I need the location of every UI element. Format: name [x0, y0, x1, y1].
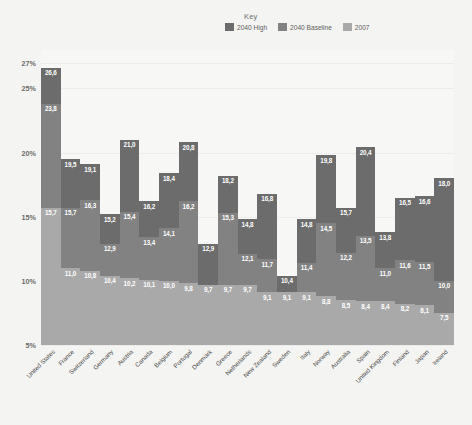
bar-stack: 18,010,07,5 — [434, 50, 454, 345]
bar-value-label: 18,0 — [438, 180, 450, 187]
bar-group[interactable]: 20,413,58,4 — [356, 50, 376, 345]
x-axis-label-cell: Sweden — [277, 345, 297, 407]
bar-value-label: 15,3 — [222, 214, 234, 221]
bar-value-label: 9,1 — [283, 294, 291, 301]
bar-segment-2007: 9,1 — [277, 292, 297, 345]
x-axis-label-cell: United Kingdom — [375, 345, 395, 407]
bar-group[interactable]: 16,511,68,2 — [395, 50, 415, 345]
bar-group[interactable]: 18,414,110,0 — [159, 50, 179, 345]
legend-item-1[interactable]: 2040 Baseline — [278, 23, 332, 31]
bar-value-label: 8,2 — [401, 305, 409, 312]
bar-value-label: 10,4 — [281, 277, 293, 284]
legend-item-0[interactable]: 2040 High — [225, 23, 267, 31]
bar-group[interactable]: 12,99,7 — [198, 50, 218, 345]
x-axis-label-cell: Japan — [415, 345, 435, 407]
x-axis-label-cell: Canada — [139, 345, 159, 407]
x-axis-label-cell: Norway — [316, 345, 336, 407]
bar-segment-2007: 10,2 — [120, 278, 140, 345]
bar-stack: 26,623,815,7 — [41, 50, 61, 345]
bar-segment-2007: 11,0 — [61, 268, 81, 345]
bar-segment-2007: 8,4 — [356, 301, 376, 345]
bar-stack: 19,814,58,8 — [316, 50, 336, 345]
bar-stack: 10,49,1 — [277, 50, 297, 345]
bar-group[interactable]: 26,623,815,7 — [41, 50, 61, 345]
bar-group[interactable]: 16,213,410,1 — [139, 50, 159, 345]
bar-segment-2007: 8,8 — [316, 296, 336, 345]
bar-value-label: 8,5 — [342, 302, 350, 309]
plot-area: 27%25%20%15%10%5% 26,623,815,719,515,711… — [41, 50, 454, 345]
x-axis-label: Japan — [413, 348, 430, 365]
bar-value-label: 10,4 — [104, 277, 116, 284]
bar-segment-2007: 9,7 — [218, 285, 238, 345]
legend-item-2[interactable]: 2007 — [343, 23, 370, 31]
bar-group[interactable]: 21,015,410,2 — [120, 50, 140, 345]
legend-swatch-icon — [278, 23, 287, 31]
bar-stack: 16,611,58,1 — [415, 50, 435, 345]
bar-columns: 26,623,815,719,515,711,019,116,310,815,2… — [41, 50, 454, 345]
bar-group[interactable]: 15,712,28,5 — [336, 50, 356, 345]
x-axis-label-cell: Australia — [336, 345, 356, 407]
bar-group[interactable]: 16,611,58,1 — [415, 50, 435, 345]
bar-stack: 18,215,39,7 — [218, 50, 238, 345]
bar-group[interactable]: 13,811,08,4 — [375, 50, 395, 345]
bar-stack: 20,816,29,8 — [179, 50, 199, 345]
bar-value-label: 19,8 — [320, 157, 332, 164]
bar-stack: 14,812,19,7 — [238, 50, 258, 345]
bar-group[interactable]: 16,811,79,1 — [257, 50, 277, 345]
bar-value-label: 14,5 — [320, 225, 332, 232]
bar-value-label: 16,2 — [143, 203, 155, 210]
chart-container: Key 2040 High2040 Baseline2007 27%25%20%… — [0, 0, 472, 425]
bar-value-label: 8,4 — [381, 303, 389, 310]
bar-value-label: 10,8 — [84, 272, 96, 279]
bar-group[interactable]: 18,215,39,7 — [218, 50, 238, 345]
x-axis-label-cell: Denmark — [198, 345, 218, 407]
bar-value-label: 11,4 — [301, 264, 313, 271]
bar-segment-2007: 9,8 — [179, 283, 199, 345]
bar-group[interactable]: 19,515,711,0 — [61, 50, 81, 345]
bar-stack: 16,213,410,1 — [139, 50, 159, 345]
bar-group[interactable]: 14,812,19,7 — [238, 50, 258, 345]
x-axis-label-cell: Belgium — [159, 345, 179, 407]
bar-segment-2007: 9,1 — [257, 292, 277, 345]
bar-value-label: 9,7 — [224, 286, 232, 293]
y-axis-tick-label: 10% — [22, 276, 36, 285]
bar-group[interactable]: 20,816,29,8 — [179, 50, 199, 345]
bar-segment-2007: 10,0 — [159, 281, 179, 345]
x-axis-label-cell: Austria — [120, 345, 140, 407]
bar-value-label: 16,3 — [84, 202, 96, 209]
bar-value-label: 15,4 — [124, 213, 136, 220]
bar-group[interactable]: 10,49,1 — [277, 50, 297, 345]
bar-value-label: 15,7 — [340, 209, 352, 216]
x-axis-label-cell: Finland — [395, 345, 415, 407]
bar-group[interactable]: 14,811,49,1 — [297, 50, 317, 345]
bar-value-label: 16,6 — [419, 198, 431, 205]
x-axis-labels: United StatesFranceSwitzerlandGermanyAus… — [41, 345, 454, 407]
bar-value-label: 12,9 — [202, 245, 214, 252]
x-axis-label-cell: France — [61, 345, 81, 407]
bar-segment-2007: 9,7 — [238, 285, 258, 345]
x-axis-label: United States — [25, 348, 56, 379]
bar-value-label: 7,5 — [440, 314, 448, 321]
bar-segment-2007: 8,5 — [336, 300, 356, 345]
legend-swatch-icon — [225, 23, 234, 31]
bar-value-label: 12,2 — [340, 254, 352, 261]
bar-group[interactable]: 19,814,58,8 — [316, 50, 336, 345]
bar-value-label: 13,4 — [143, 239, 155, 246]
bar-group[interactable]: 19,116,310,8 — [80, 50, 100, 345]
bar-group[interactable]: 18,010,07,5 — [434, 50, 454, 345]
bar-group[interactable]: 15,212,910,4 — [100, 50, 120, 345]
bar-value-label: 14,1 — [163, 230, 175, 237]
y-axis-tick-label: 20% — [22, 148, 36, 157]
bar-value-label: 9,7 — [204, 286, 212, 293]
bar-value-label: 11,5 — [419, 263, 431, 270]
legend-swatch-icon — [343, 23, 352, 31]
bar-value-label: 16,2 — [183, 203, 195, 210]
bar-value-label: 14,8 — [242, 221, 254, 228]
bar-value-label: 21,0 — [124, 141, 136, 148]
bar-segment-2007: 10,8 — [80, 271, 100, 345]
bar-value-label: 9,8 — [184, 285, 192, 292]
y-axis-tick-label: 15% — [22, 212, 36, 221]
y-axis-tick-label: 27% — [22, 58, 36, 67]
bar-value-label: 10,0 — [438, 282, 450, 289]
x-axis-label: Spain — [354, 348, 370, 364]
